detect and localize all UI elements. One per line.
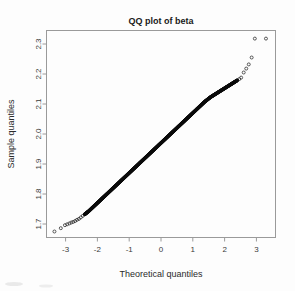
data-point bbox=[236, 79, 239, 82]
chart-title: QQ plot of beta bbox=[129, 16, 195, 26]
y-tick-label: 2.0 bbox=[34, 128, 43, 140]
y-tick-label: 1.9 bbox=[34, 158, 43, 170]
y-tick-label: 2.3 bbox=[34, 38, 43, 50]
x-tick-label: 3 bbox=[254, 245, 259, 254]
y-axis-label: Sample quantiles bbox=[6, 99, 16, 169]
x-tick-label: 0 bbox=[159, 245, 164, 254]
qq-plot-figure: QQ plot of beta -3-2-10123 1.71.81.92.02… bbox=[0, 0, 295, 291]
y-tick-label: 1.7 bbox=[34, 218, 43, 230]
x-tick-label: 1 bbox=[191, 245, 196, 254]
x-tick-label: -1 bbox=[126, 245, 134, 254]
x-tick-label: 2 bbox=[222, 245, 227, 254]
y-tick-label: 2.2 bbox=[34, 68, 43, 80]
scan-artifact bbox=[5, 282, 23, 286]
y-tick-label: 1.8 bbox=[34, 188, 43, 200]
plot-canvas: QQ plot of beta -3-2-10123 1.71.81.92.02… bbox=[0, 0, 295, 291]
x-axis-label: Theoretical quantiles bbox=[119, 269, 203, 279]
y-tick-label: 2.1 bbox=[34, 98, 43, 110]
x-tick-label: -3 bbox=[62, 245, 70, 254]
x-tick-label: -2 bbox=[94, 245, 102, 254]
scan-artifact-secondary bbox=[39, 284, 53, 287]
